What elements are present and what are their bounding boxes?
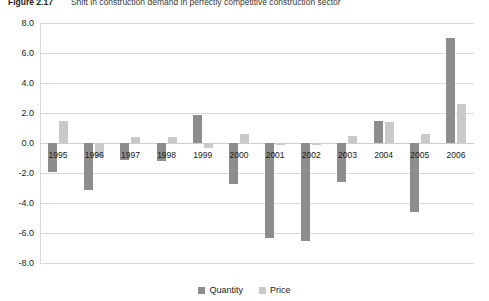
bar-group: 2002 (293, 23, 329, 263)
legend-label: Quantity (209, 285, 243, 295)
bar-group: 2005 (402, 23, 438, 263)
bar-group: 2001 (257, 23, 293, 263)
bar-quantity-2004[interactable] (374, 121, 383, 144)
legend-item-price[interactable]: Price (259, 285, 291, 295)
bar-group: 1998 (149, 23, 185, 263)
bar-group: 1995 (40, 23, 76, 263)
y-axis-tick-label: 2.0 (21, 108, 34, 118)
bar-quantity-1999[interactable] (193, 115, 202, 144)
legend-label: Price (270, 285, 291, 295)
y-axis-tick-label: 8.0 (21, 18, 34, 28)
figure-caption-text: Shift in construction demand in perfectl… (71, 0, 341, 7)
bar-price-1998[interactable] (168, 137, 177, 143)
bar-group: 2000 (221, 23, 257, 263)
bar-quantity-2003[interactable] (337, 143, 346, 182)
bar-price-2005[interactable] (421, 134, 430, 143)
bar-price-2003[interactable] (348, 136, 357, 144)
x-axis-tick-label: 2004 (374, 150, 393, 160)
x-axis-tick-label: 2001 (266, 150, 285, 160)
bar-group: 1996 (76, 23, 112, 263)
x-axis-tick-label: 2003 (338, 150, 357, 160)
y-axis-tick-label: -4.0 (18, 198, 34, 208)
bar-group: 2003 (329, 23, 365, 263)
bar-price-1999[interactable] (204, 143, 213, 148)
bar-price-2000[interactable] (240, 134, 249, 143)
x-axis-tick-label: 1997 (121, 150, 140, 160)
chart-legend: QuantityPrice (0, 285, 489, 295)
bar-price-2006[interactable] (457, 104, 466, 143)
x-axis-tick-label: 1995 (49, 150, 68, 160)
x-axis-tick-label: 2002 (302, 150, 321, 160)
y-axis-tick-label: 6.0 (21, 48, 34, 58)
y-axis-tick-label: -2.0 (18, 168, 34, 178)
legend-swatch-quantity (198, 287, 205, 294)
bar-price-2001[interactable] (276, 143, 285, 145)
legend-swatch-price (259, 287, 266, 294)
figure-caption-label: Figure 2.17 (8, 0, 53, 7)
y-axis-tick-label: 0.0 (21, 138, 34, 148)
x-axis-tick-label: 2005 (410, 150, 429, 160)
x-axis-tick-label: 1999 (193, 150, 212, 160)
bar-group: 2006 (438, 23, 474, 263)
gridline--8: -8.0 (40, 263, 474, 264)
bar-group: 1997 (112, 23, 148, 263)
bar-price-1995[interactable] (59, 121, 68, 144)
bar-quantity-2006[interactable] (446, 38, 455, 143)
y-axis-tick-label: -8.0 (18, 258, 34, 268)
y-axis-tick-label: 4.0 (21, 78, 34, 88)
x-axis-tick-label: 1996 (85, 150, 104, 160)
chart-plot-area: 8.06.04.02.00.0-2.0-4.0-6.0-8.0 19951996… (40, 23, 474, 263)
bar-group: 1999 (185, 23, 221, 263)
x-axis-tick-label: 2000 (229, 150, 248, 160)
legend-item-quantity[interactable]: Quantity (198, 285, 243, 295)
figure-container: Figure 2.17Shift in construction demand … (0, 0, 489, 301)
bar-price-1997[interactable] (131, 137, 140, 143)
figure-caption: Figure 2.17Shift in construction demand … (8, 0, 485, 8)
y-axis-tick-label: -6.0 (18, 228, 34, 238)
bar-groups: 1995199619971998199920002001200220032004… (40, 23, 474, 263)
x-axis-tick-label: 2006 (447, 150, 466, 160)
bar-price-2002[interactable] (312, 143, 321, 145)
x-axis-tick-label: 1998 (157, 150, 176, 160)
bar-price-2004[interactable] (385, 122, 394, 143)
bar-group: 2004 (366, 23, 402, 263)
